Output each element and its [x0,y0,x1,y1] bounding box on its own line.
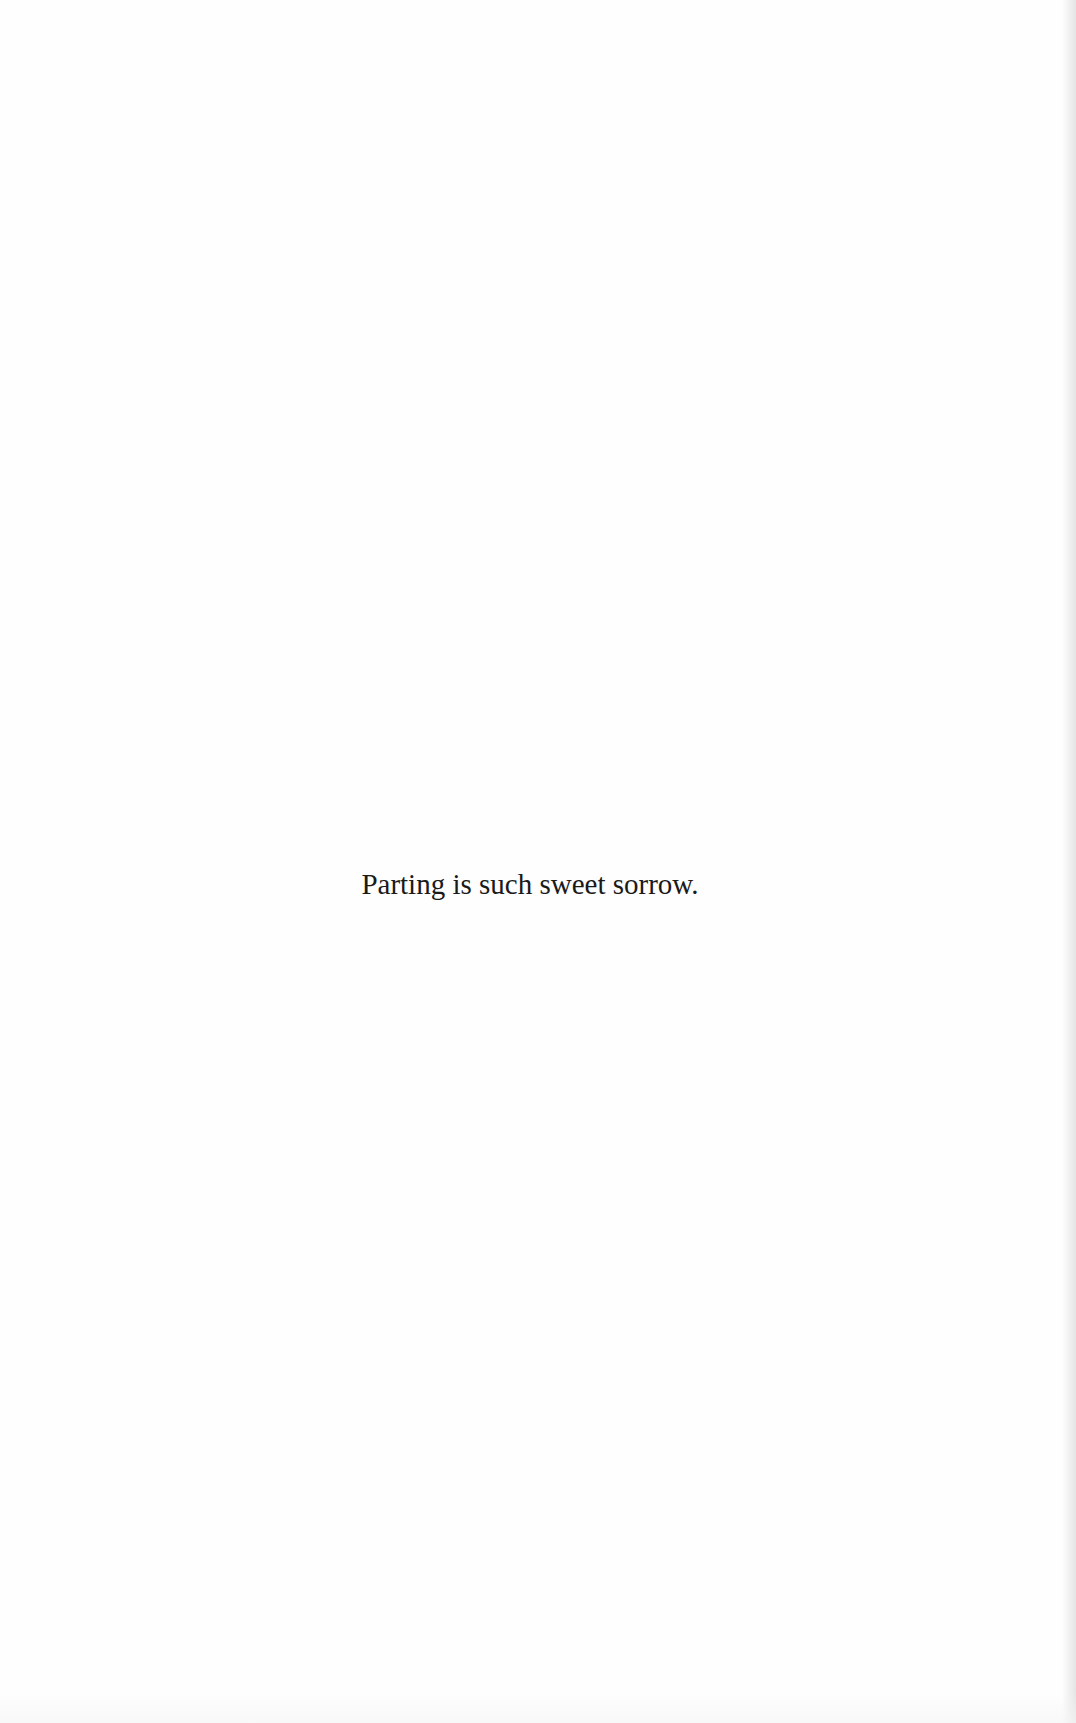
document-page: Parting is such sweet sorrow. [0,0,1076,1723]
page-edge-shadow [1062,0,1076,1723]
page-bottom-shadow [0,1693,1076,1723]
epigraph-text: Parting is such sweet sorrow. [0,867,1060,902]
